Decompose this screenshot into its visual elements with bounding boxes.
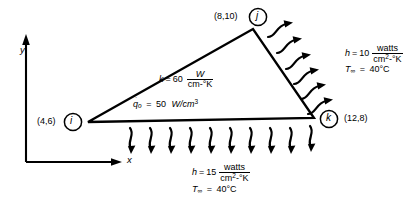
- node-label-k: k: [326, 113, 331, 124]
- conductivity-value: 60: [173, 75, 183, 84]
- convection-right-t-subscript: ∞: [351, 67, 356, 74]
- convection-arrow-bottom: [308, 126, 316, 152]
- convection-arrow-right: [294, 67, 319, 84]
- convection-arrow-bottom: [248, 128, 256, 154]
- convection-bottom-units-fraction: watts cm2-°K: [219, 163, 249, 183]
- convection-arrow-right: [268, 20, 293, 37]
- conductivity-equals: =: [164, 75, 173, 84]
- convection-arrow-bottom: [148, 128, 156, 154]
- convection-arrow-bottom: [268, 128, 276, 154]
- convection-right-den-tail: -°K: [389, 54, 402, 64]
- conductivity-units-denominator: cm-°K: [187, 79, 214, 89]
- node-label-j: j: [256, 11, 258, 22]
- conductivity-units-numerator: W: [187, 70, 214, 79]
- convection-bottom-den-base: cm: [220, 173, 232, 183]
- convection-bottom-t-subscript: ∞: [198, 187, 203, 194]
- node-coord-k: (12,8): [344, 114, 368, 123]
- convection-right-units-fraction: watts cm2-°K: [372, 44, 402, 64]
- convection-bottom-h-equals: =: [197, 168, 206, 177]
- convection-right-units-numerator: watts: [372, 44, 402, 53]
- heat-generation-value: 50: [156, 99, 166, 109]
- y-axis-label: y: [20, 45, 25, 55]
- heat-generation-label: ˙ q o = 50 W/cm3: [133, 99, 198, 110]
- x-axis-arrowhead: [111, 158, 122, 166]
- convection-bottom-h-label: h = 15 watts cm2-°K: [192, 163, 250, 183]
- convection-bottom-t-value: 40°C: [216, 184, 236, 194]
- node-circle-i: [64, 113, 81, 130]
- convection-right-t-value: 40°C: [369, 64, 389, 74]
- convection-right-t-equals: =: [358, 64, 367, 74]
- convection-arrow-bottom: [128, 128, 135, 154]
- convection-arrows-bottom: [128, 126, 316, 154]
- convection-bottom-h-value: 15: [206, 168, 216, 177]
- convection-bottom-t-equals: =: [205, 184, 214, 194]
- q-dot-accent: ˙: [135, 97, 137, 104]
- convection-arrow-bottom: [188, 128, 196, 154]
- convection-arrow-right: [286, 52, 311, 69]
- convection-bottom-units-denominator: cm2-°K: [219, 172, 249, 183]
- convection-bottom-units-numerator: watts: [219, 163, 249, 172]
- convection-arrow-right: [301, 82, 326, 99]
- node-label-i: i: [70, 116, 72, 127]
- convection-right-tinf-label: T∞ = 40°C: [345, 65, 390, 75]
- heat-generation-symbol-group: ˙ q: [133, 100, 138, 109]
- figure-canvas: y x i j k (4,6) (8,10) (12,8) k = 60 W c…: [0, 0, 417, 206]
- node-coord-i: (4,6): [37, 117, 56, 126]
- convection-bottom-den-tail: -°K: [236, 173, 249, 183]
- convection-arrow-bottom: [208, 128, 216, 154]
- convection-right-h-label: h = 10 watts cm2-°K: [345, 44, 403, 64]
- convection-right-h-equals: =: [350, 49, 359, 58]
- convection-right-h-value: 10: [359, 49, 369, 58]
- x-axis-label: x: [127, 155, 132, 165]
- convection-arrow-bottom: [288, 128, 296, 154]
- heat-generation-equals: =: [144, 99, 153, 109]
- node-coord-j: (8,10): [214, 12, 238, 21]
- convection-arrow-bottom: [228, 128, 236, 154]
- convection-arrow-bottom: [168, 128, 176, 154]
- convection-bottom-tinf-label: T∞ = 40°C: [192, 185, 237, 195]
- heat-generation-subscript: o: [138, 102, 142, 109]
- coordinate-axes: [22, 34, 122, 166]
- heat-generation-units-exponent: 3: [194, 98, 198, 105]
- thermal-conductivity-label: k = 60 W cm-°K: [159, 70, 213, 89]
- convection-arrow-right: [277, 36, 302, 53]
- convection-right-den-base: cm: [373, 54, 385, 64]
- convection-right-units-denominator: cm2-°K: [372, 53, 402, 64]
- conductivity-units-fraction: W cm-°K: [187, 70, 214, 89]
- heat-generation-units: W/cm: [171, 99, 194, 109]
